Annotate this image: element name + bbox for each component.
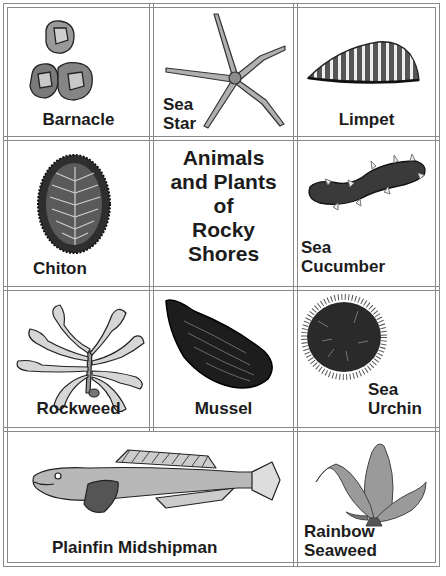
- border-left-outer: [3, 3, 4, 567]
- label-line: Cucumber: [301, 257, 385, 276]
- label-line: Plainfin Midshipman: [52, 538, 217, 557]
- border-right-inner: [435, 7, 436, 563]
- label-line: Limpet: [339, 110, 395, 129]
- card-sea-urchin: Sea Urchin: [298, 291, 435, 427]
- label-line: Sea: [301, 238, 385, 257]
- row-divider-3a: [3, 427, 440, 428]
- page-title: Animals and Plants of Rocky Shores: [154, 146, 293, 266]
- label-sea-star: Sea Star: [163, 95, 196, 133]
- card-title: Animals and Plants of Rocky Shores: [154, 141, 293, 286]
- card-sea-star: Sea Star: [154, 8, 293, 136]
- label-limpet: Limpet: [298, 110, 435, 129]
- label-chiton: Chiton: [33, 259, 87, 278]
- label-line: Seaweed: [304, 541, 377, 560]
- label-mussel: Mussel: [154, 399, 293, 418]
- title-line: Animals: [154, 146, 293, 170]
- title-line: Shores: [154, 242, 293, 266]
- label-line: Rockweed: [36, 399, 120, 418]
- card-rockweed: Rockweed: [8, 291, 149, 427]
- card-mussel: Mussel: [154, 291, 293, 427]
- label-line: Sea: [163, 95, 196, 114]
- border-bottom-outer: [3, 566, 440, 567]
- col-divider-1a: [149, 3, 150, 431]
- label-sea-cucumber: Sea Cucumber: [301, 238, 385, 276]
- label-rockweed: Rockweed: [8, 399, 149, 418]
- label-line: Sea: [368, 380, 422, 399]
- card-limpet: Limpet: [298, 8, 435, 136]
- label-line: Mussel: [195, 399, 253, 418]
- card-chiton: Chiton: [8, 141, 149, 286]
- label-line: Star: [163, 114, 196, 133]
- label-rainbow-seaweed: Rainbow Seaweed: [304, 522, 377, 560]
- card-plainfin-midshipman: Plainfin Midshipman: [8, 432, 293, 562]
- border-bottom-inner: [7, 562, 436, 563]
- card-barnacle: Barnacle: [8, 8, 149, 136]
- label-line: Barnacle: [43, 110, 115, 129]
- row-divider-1a: [3, 136, 440, 137]
- row-divider-2a: [3, 286, 440, 287]
- label-sea-urchin: Sea Urchin: [368, 380, 422, 418]
- label-line: Chiton: [33, 259, 87, 278]
- title-line: and Plants: [154, 170, 293, 194]
- border-top-outer: [3, 3, 440, 4]
- card-rainbow-seaweed: Rainbow Seaweed: [298, 432, 435, 562]
- label-line: Urchin: [368, 399, 422, 418]
- card-sea-cucumber: Sea Cucumber: [298, 141, 435, 286]
- title-line: Rocky: [154, 218, 293, 242]
- label-line: Rainbow: [304, 522, 377, 541]
- col-divider-2a: [293, 3, 294, 567]
- label-plainfin-midshipman: Plainfin Midshipman: [52, 538, 217, 557]
- border-right-outer: [439, 3, 440, 567]
- label-barnacle: Barnacle: [8, 110, 149, 129]
- title-line: of: [154, 194, 293, 218]
